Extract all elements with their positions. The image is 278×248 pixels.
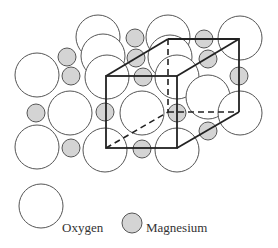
magnesium-atom xyxy=(134,68,152,86)
magnesium-atom xyxy=(27,104,45,122)
oxygen-atom xyxy=(218,91,262,135)
magnesium-atom xyxy=(133,140,151,158)
magnesium-atom xyxy=(58,48,76,66)
magnesium-atom xyxy=(62,139,80,157)
oxygen-atom xyxy=(85,55,129,99)
oxygen-atom xyxy=(15,125,59,169)
magnesium-atom xyxy=(62,67,80,85)
oxygen-atom xyxy=(48,91,92,135)
oxygen-atom xyxy=(83,128,127,172)
legend-magnesium-swatch xyxy=(122,213,142,233)
legend: Oxygen Magnesium xyxy=(19,184,207,235)
oxygen-atom xyxy=(218,16,262,60)
magnesium-atom xyxy=(126,29,144,47)
legend-oxygen-swatch xyxy=(19,184,63,228)
legend-magnesium-label: Magnesium xyxy=(146,220,207,235)
oxygen-atom xyxy=(120,91,164,135)
oxygen-atom xyxy=(15,53,59,97)
mgo-crystal-diagram: Oxygen Magnesium xyxy=(0,0,278,248)
magnesium-atom xyxy=(96,103,114,121)
legend-oxygen-label: Oxygen xyxy=(62,220,104,235)
